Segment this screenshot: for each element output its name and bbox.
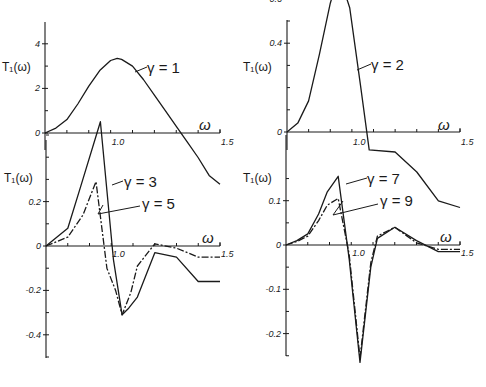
y-tick-label: -0.4: [25, 330, 41, 340]
y-tick-label: -0.2: [25, 285, 41, 295]
y-axis-title-top-right: T₁(ω): [243, 60, 272, 74]
x-tick-label: 1.0: [353, 137, 366, 147]
svg-text:γ = 9: γ = 9: [380, 192, 413, 209]
x-axis-title-top-left: ω: [199, 116, 211, 133]
legend-gamma-5: γ = 5: [98, 195, 175, 214]
y-tick-label: 4: [35, 39, 40, 49]
svg-text:γ = 5: γ = 5: [142, 195, 175, 212]
y-tick-label: 2: [34, 83, 40, 93]
x-axis-title-bottom-right: ω: [440, 228, 452, 245]
y-tick-label: 0: [276, 240, 281, 250]
y-tick-label: 0.1: [268, 196, 281, 206]
legend-gamma-7: γ = 7: [346, 170, 400, 187]
x-tick-label: 1.5: [221, 137, 235, 147]
y-axis-title-top-left: T₁(ω): [2, 60, 31, 74]
x-tick-label: 1.0: [112, 137, 125, 147]
x-tick-label: 1.0: [352, 248, 365, 258]
y-tick-label: 0.2: [28, 197, 41, 207]
y-tick-label: 0: [35, 128, 40, 138]
panel-top-left: 1.01.5024: [34, 22, 235, 184]
y-tick-label: 0: [36, 241, 41, 251]
series-line: [286, 176, 460, 362]
y-tick-label: 0: [277, 127, 282, 137]
series-line: [286, 199, 460, 359]
y-tick-label: -0.2: [265, 329, 281, 339]
x-axis-title-bottom-left: ω: [202, 229, 214, 246]
svg-text:γ = 7: γ = 7: [367, 170, 400, 187]
svg-text:γ = 1: γ = 1: [147, 59, 180, 76]
y-tick-label: 0.6: [269, 0, 282, 4]
svg-text:γ = 3: γ = 3: [124, 173, 157, 190]
x-axis-title-top-right: ω: [438, 116, 450, 133]
svg-text:γ = 2: γ = 2: [371, 56, 404, 73]
figure: 1.01.5024 1.01.500.40.6 1.01.500.2-0.2-0…: [0, 0, 486, 387]
legend-gamma-2: γ = 2: [357, 56, 404, 73]
x-tick-label: 1.5: [461, 137, 475, 147]
x-tick-label: 1.5: [461, 248, 475, 258]
legend-gamma-3: γ = 3: [112, 173, 157, 190]
series-line: [45, 58, 220, 184]
x-tick-label: 1.0: [112, 249, 125, 259]
y-tick-label: 0.4: [269, 38, 282, 48]
y-tick-label: -0.1: [265, 284, 281, 294]
series-line: [46, 182, 220, 315]
legend-gamma-1: γ = 1: [135, 59, 180, 76]
y-axis-title-bottom-right: T₁(ω): [243, 171, 272, 185]
x-tick-label: 1.5: [221, 249, 235, 259]
y-axis-title-bottom-left: T₁(ω): [4, 171, 33, 185]
legend-gamma-9: γ = 9: [333, 192, 413, 215]
